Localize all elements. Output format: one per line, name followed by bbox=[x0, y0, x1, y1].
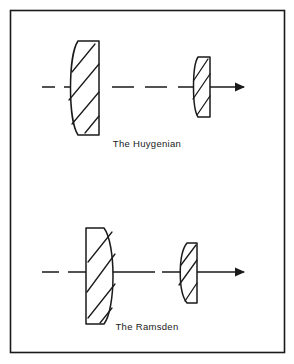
huygenian-label: The Huygenian bbox=[113, 138, 181, 149]
eyepiece-diagram-figure: The Huygenian bbox=[0, 0, 294, 364]
huygenian-eye-lens bbox=[193, 57, 210, 117]
huygenian-field-lens bbox=[69, 41, 99, 135]
diagram-canvas: The Huygenian bbox=[0, 0, 294, 364]
ramsden-label: The Ramsden bbox=[116, 321, 179, 332]
figure-border bbox=[11, 11, 285, 353]
